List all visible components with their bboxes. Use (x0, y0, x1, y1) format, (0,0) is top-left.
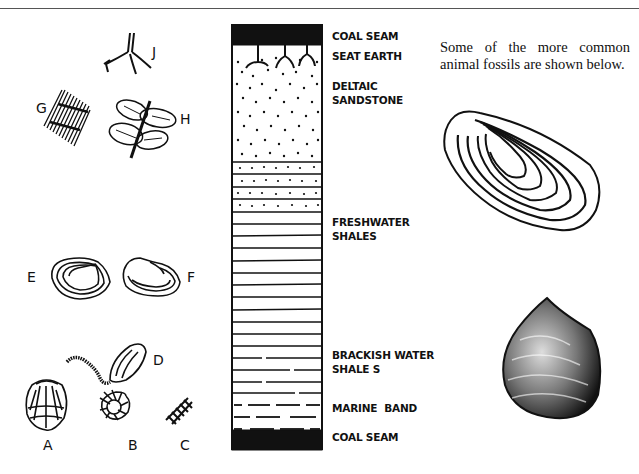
coal-seam-bottom-layer (232, 430, 322, 450)
label-marine-band: MARINE BAND (332, 402, 417, 415)
fossil-letter-a: A (43, 437, 53, 453)
animal-fossils-caption: Some of the more common animal fossils a… (440, 39, 630, 73)
label-coal-seam-bottom: COAL SEAM (332, 431, 398, 444)
fossil-letter-b: B (128, 437, 138, 453)
fossil-e-bivalve-icon (52, 258, 110, 299)
fossil-letter-g: G (36, 100, 47, 116)
label-freshwater-line1: FRESHWATER (332, 216, 410, 229)
rounded-bivalve-illustration (503, 298, 600, 418)
fossil-g-stem-icon (44, 90, 90, 146)
fossil-d-worm-bivalve-icon (67, 344, 146, 383)
fossil-letter-c: C (180, 437, 190, 453)
fossil-letter-d: D (153, 352, 164, 368)
elongate-mussel-illustration (444, 112, 599, 231)
label-brackish-line2: SHALE S (332, 363, 380, 376)
label-deltaic-line1: DELTAIC (332, 80, 378, 93)
fossil-letter-f: F (187, 269, 195, 285)
label-coal-seam-top: COAL SEAM (332, 30, 398, 43)
fossil-a-brachiopod-icon (26, 380, 66, 430)
label-brackish-line1: BRACKISH WATER (332, 349, 434, 362)
seat-earth-roots (246, 45, 315, 68)
brackish-shale-lines (232, 346, 322, 393)
fossil-c-crinoid-stem-icon (166, 398, 192, 424)
sandstone-bands (232, 162, 322, 212)
coal-seam-top-layer (232, 25, 322, 45)
label-freshwater-line2: SHALES (332, 230, 377, 243)
label-deltaic-line2: SANDSTONE (332, 94, 403, 107)
marine-band-dashes (234, 405, 320, 429)
freshwater-shale-lines (232, 224, 322, 334)
fossil-j-root-icon (104, 33, 151, 74)
fossil-b-goniatite-icon (100, 390, 130, 420)
deltaic-sandstone-dots (236, 57, 319, 157)
strata-column (232, 25, 322, 450)
fossil-letter-e: E (27, 269, 36, 285)
label-seat-earth: SEAT EARTH (332, 50, 402, 63)
fossil-f-bivalve-icon (123, 258, 180, 296)
fossil-letter-h: H (180, 111, 191, 127)
fossil-h-fern-leaf-icon (107, 96, 177, 158)
fossil-letter-j: J (152, 44, 156, 60)
